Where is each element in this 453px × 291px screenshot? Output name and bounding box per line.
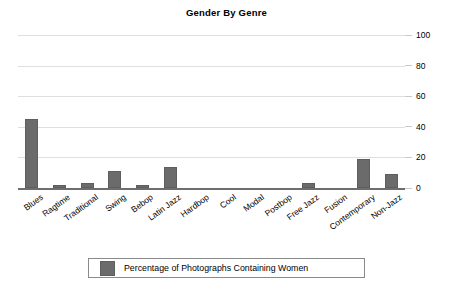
chart-container: Gender By Genre 020406080100 BluesRagtim…: [0, 0, 453, 291]
legend-swatch-icon: [100, 261, 115, 276]
x-axis-tick-label: Hardbop: [178, 192, 210, 219]
y-axis-tick: 40: [405, 121, 453, 133]
chart-title: Gender By Genre: [0, 7, 453, 19]
x-axis-tick-label: Cool: [218, 192, 238, 210]
y-axis-tick: 100: [405, 29, 453, 41]
x-axis-labels: BluesRagtimeTraditionalSwingBebopLatin J…: [18, 190, 405, 248]
bar: [108, 171, 121, 188]
legend-label: Percentage of Photographs Containing Wom…: [124, 263, 308, 274]
y-tick-mark: [405, 188, 412, 189]
y-axis-tick: 0: [405, 182, 453, 194]
plot-area: [18, 35, 405, 188]
y-tick-mark: [405, 65, 412, 66]
bar: [385, 174, 398, 188]
y-tick-label: 100: [416, 30, 430, 40]
y-tick-mark: [405, 126, 412, 127]
bar: [164, 167, 177, 188]
y-axis-tick: 60: [405, 90, 453, 102]
bar: [357, 159, 370, 188]
y-tick-label: 20: [416, 152, 425, 162]
y-tick-mark: [405, 35, 412, 36]
chart-legend: Percentage of Photographs Containing Wom…: [88, 258, 365, 278]
x-axis-tick-text: Cool: [218, 192, 238, 210]
bar: [25, 119, 38, 188]
y-tick-label: 40: [416, 122, 425, 132]
y-axis-tick: 80: [405, 60, 453, 72]
y-tick-label: 60: [416, 91, 425, 101]
bar-series: [18, 35, 405, 188]
x-axis-tick-label: Swing: [103, 192, 128, 214]
y-tick-label: 80: [416, 61, 425, 71]
y-tick-mark: [405, 157, 412, 158]
y-axis-tick: 20: [405, 151, 453, 163]
y-tick-label: 0: [416, 183, 421, 193]
x-axis-tick-text: Swing: [103, 192, 128, 214]
y-axis: 020406080100: [405, 35, 453, 188]
x-axis-tick-text: Hardbop: [178, 192, 210, 219]
y-tick-mark: [405, 96, 412, 97]
